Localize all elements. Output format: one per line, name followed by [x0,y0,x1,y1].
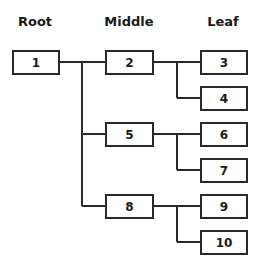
node-9: 9 [200,194,248,219]
node-10: 10 [200,230,248,255]
node-7: 7 [200,158,248,183]
node-6: 6 [200,122,248,147]
node-1: 1 [12,50,60,75]
node-2: 2 [105,50,154,75]
node-8: 8 [105,194,154,219]
node-4: 4 [200,86,248,111]
node-5: 5 [105,122,154,147]
node-3: 3 [200,50,248,75]
